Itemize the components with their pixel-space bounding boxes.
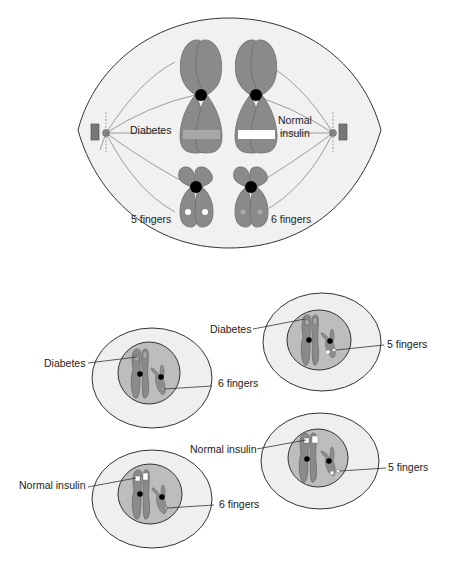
label-diabetes: Diabetes xyxy=(130,124,171,136)
right-centrosome xyxy=(339,124,347,140)
daughter-cell-4: Normal insulin 5 fingers xyxy=(190,413,428,509)
daughter-cell-1: Diabetes 6 fingers xyxy=(44,328,258,428)
centromere xyxy=(245,181,257,193)
six-fingers-allele xyxy=(258,210,263,215)
left-centrosome xyxy=(91,124,99,140)
cell2-label-diabetes: Diabetes xyxy=(210,323,251,335)
five-fingers-allele xyxy=(202,209,208,215)
label-normal-line1: Normal xyxy=(278,114,312,126)
cell3-label-six-fingers: 6 fingers xyxy=(219,498,259,510)
label-six-fingers: 6 fingers xyxy=(271,213,311,225)
centromere xyxy=(250,89,262,101)
label-normal-line2: insulin xyxy=(280,127,310,139)
cell4-label-normal-insulin: Normal insulin xyxy=(190,443,257,455)
six-fingers-allele xyxy=(241,210,246,215)
normal-allele-band xyxy=(256,130,275,139)
five-fingers-allele xyxy=(185,209,191,215)
centromere xyxy=(195,89,207,101)
cell2-label-five-fingers: 5 fingers xyxy=(387,338,427,350)
cell4-label-five-fingers: 5 fingers xyxy=(388,461,428,473)
cell3-label-normal-insulin: Normal insulin xyxy=(19,479,86,491)
diabetes-allele-band xyxy=(201,130,220,139)
centromere xyxy=(190,181,202,193)
diabetes-allele-band xyxy=(183,130,202,139)
metaphase-cell: Diabetes Normal insulin 5 fingers 6 fing… xyxy=(78,18,381,248)
meiosis-diagram: Diabetes Normal insulin 5 fingers 6 fing… xyxy=(0,0,459,574)
daughter-cell-3: Normal insulin 6 fingers xyxy=(19,450,259,548)
normal-allele-band xyxy=(238,130,257,139)
cell1-label-diabetes: Diabetes xyxy=(44,357,85,369)
cell1-label-six-fingers: 6 fingers xyxy=(218,377,258,389)
label-five-fingers: 5 fingers xyxy=(131,213,171,225)
